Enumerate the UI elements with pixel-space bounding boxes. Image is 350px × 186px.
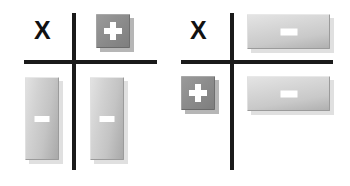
horizontal-axis-line bbox=[181, 60, 333, 64]
plus-button-top-right[interactable] bbox=[96, 14, 130, 48]
vertical-axis-line bbox=[72, 13, 76, 170]
quadrant-diagram-left: X bbox=[0, 0, 175, 186]
figure-canvas: X X bbox=[0, 0, 350, 186]
quadrant-label-x: X bbox=[34, 18, 51, 43]
minus-icon bbox=[35, 116, 50, 122]
minus-icon bbox=[280, 28, 297, 35]
plus-icon bbox=[104, 22, 122, 40]
quadrant-label-x: X bbox=[190, 18, 207, 43]
minus-icon bbox=[100, 116, 115, 122]
vertical-axis-line bbox=[230, 13, 234, 170]
horizontal-axis-line bbox=[24, 60, 157, 64]
minus-button-bottom-right[interactable] bbox=[247, 76, 330, 111]
quadrant-diagram-right: X bbox=[175, 0, 350, 186]
minus-icon bbox=[280, 90, 297, 97]
plus-icon bbox=[189, 84, 207, 102]
plus-button-bottom-left[interactable] bbox=[181, 76, 215, 110]
minus-button-bottom-right[interactable] bbox=[90, 77, 124, 160]
minus-button-bottom-left[interactable] bbox=[25, 77, 59, 160]
minus-button-top-right[interactable] bbox=[247, 14, 330, 49]
